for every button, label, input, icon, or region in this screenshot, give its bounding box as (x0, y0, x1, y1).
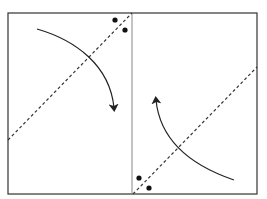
folding-diagram (0, 0, 267, 199)
right-rotation-arrow-icon (156, 100, 234, 180)
left-dot-2 (122, 27, 127, 32)
right-fold-line (133, 67, 257, 194)
right-dot-1 (136, 175, 141, 180)
right-panel (133, 67, 257, 194)
diagram-canvas (0, 0, 267, 199)
left-dot-1 (112, 17, 117, 22)
left-fold-line (8, 13, 132, 140)
right-dot-2 (146, 185, 151, 190)
left-panel (8, 13, 132, 140)
left-rotation-arrow-icon (37, 29, 114, 108)
